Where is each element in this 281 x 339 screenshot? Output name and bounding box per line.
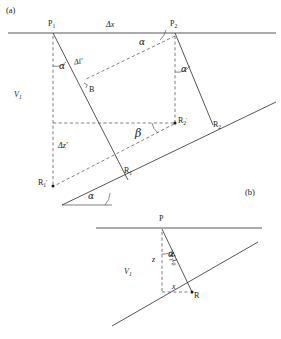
point-label-p2: P2 <box>170 20 177 28</box>
panel-a-group <box>8 30 276 205</box>
point-label-r1-prime: R1' <box>38 179 47 187</box>
alpha-arc-dip <box>105 193 110 205</box>
raypath-p2-r2 <box>175 33 213 125</box>
angle-label-alpha-dip: α <box>88 192 94 201</box>
point-label-p1: P1 <box>48 20 55 28</box>
point-label-r2: R2 <box>213 121 221 129</box>
refraction-geometry-figure: .ln{stroke:#2b2b2b;fill:none;stroke-widt… <box>0 0 281 339</box>
depth-label-z: z <box>152 256 155 264</box>
point-label-r1: R1 <box>124 167 132 175</box>
offset-label-x: x <box>172 283 176 291</box>
beta-arc-r2prime <box>152 123 158 133</box>
interface-line-a <box>62 102 276 205</box>
point-label-r2-prime: R2' <box>178 117 187 125</box>
segment-label-delta-z: Δz' <box>58 142 68 150</box>
alpha-arc-p2-surface <box>160 30 166 40</box>
point-dot-r1prime <box>52 185 55 188</box>
angle-label-alpha-p1-vertical: α <box>59 62 65 71</box>
right-angle-tick-b <box>84 83 87 88</box>
angle-label-alpha-p2-surface: α <box>139 38 145 47</box>
segment-label-delta-x: Δx <box>106 21 114 29</box>
wavefront-dashed-p2-b <box>84 36 175 80</box>
angle-label-alpha-p2-vertical: α <box>181 65 187 74</box>
angle-label-beta: β <box>135 128 141 139</box>
segment-label-delta-l: Δl' <box>73 57 83 66</box>
raypath-p1-r1 <box>53 33 128 180</box>
velocity-label-a: V1 <box>14 91 22 99</box>
point-label-r-b: R <box>194 292 199 300</box>
velocity-label-b: V1 <box>124 268 132 276</box>
panel-b-group <box>96 228 262 326</box>
point-dot-r2prime <box>174 122 177 125</box>
interface-line-b <box>112 242 258 326</box>
point-label-p-b: P <box>159 215 163 223</box>
angle-label-alpha-b: α <box>168 250 174 259</box>
panel-label-a: (a) <box>6 6 15 15</box>
point-label-b: B <box>89 86 94 94</box>
panel-label-b: (b) <box>245 188 255 197</box>
